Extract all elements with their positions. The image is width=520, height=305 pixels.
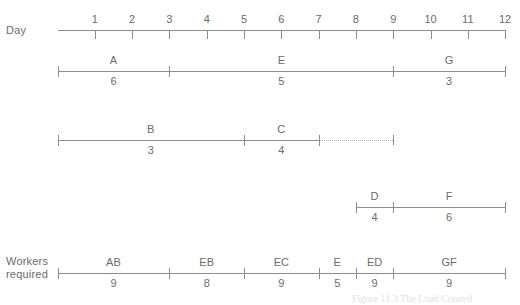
segment-value: 9: [446, 277, 452, 289]
day-axis-tick: [393, 30, 394, 39]
segment-value: 5: [334, 277, 340, 289]
day-axis-tick-label: 3: [166, 13, 172, 25]
row-workers-end-tick: [505, 268, 506, 279]
segment-name: F: [446, 190, 453, 202]
row-df-line: [356, 207, 505, 208]
segment-name: ED: [367, 256, 382, 268]
day-axis-tick: [468, 30, 469, 39]
segment-name: D: [371, 190, 379, 202]
day-axis-tick: [132, 30, 133, 39]
day-axis-tick-label: 12: [499, 13, 511, 25]
day-axis-tick: [207, 30, 208, 39]
segment-value: 5: [278, 75, 284, 87]
row-df-end-tick: [505, 202, 506, 213]
day-axis-tick: [281, 30, 282, 39]
day-axis-tick: [356, 30, 357, 39]
day-axis-tick-label: 1: [92, 13, 98, 25]
row-bc-divider: [244, 135, 245, 146]
segment-name: B: [147, 123, 154, 135]
segment-value: 9: [371, 277, 377, 289]
segment-value: 3: [148, 144, 154, 156]
segment-value: 4: [278, 144, 284, 156]
day-axis-tick-label: 10: [424, 13, 436, 25]
row-aeg-divider: [393, 66, 394, 77]
segment-value: 4: [371, 211, 377, 223]
day-axis-tick: [319, 30, 320, 39]
gantt-chart: Day Workers required 123456789101112A6E5…: [0, 0, 520, 305]
row-bc-float-line: [319, 140, 394, 141]
day-axis-tick: [95, 30, 96, 39]
segment-name: G: [445, 54, 454, 66]
row-aeg-line: [58, 71, 506, 72]
row-workers-start-tick: [58, 268, 59, 279]
day-axis-tick-label: 9: [390, 13, 396, 25]
day-axis-tick-label: 8: [353, 13, 359, 25]
segment-name: C: [277, 123, 285, 135]
segment-value: 8: [204, 277, 210, 289]
segment-value: 9: [278, 277, 284, 289]
segment-value: 9: [110, 277, 116, 289]
segment-value: 6: [446, 211, 452, 223]
segment-name: GF: [442, 256, 457, 268]
row-aeg-divider: [169, 66, 170, 77]
day-axis-label: Day: [6, 24, 26, 37]
row-workers-divider: [356, 268, 357, 279]
row-workers-divider: [169, 268, 170, 279]
segment-name: AB: [106, 256, 121, 268]
figure-caption: Figure 11.3 The Load Created: [352, 293, 472, 304]
day-axis-tick-label: 5: [241, 13, 247, 25]
row-aeg-start-tick: [58, 66, 59, 77]
segment-name: EB: [199, 256, 214, 268]
row-aeg-end-tick: [505, 66, 506, 77]
row-bc-start-tick: [58, 135, 59, 146]
day-axis-tick-label: 4: [204, 13, 210, 25]
row-workers-line: [58, 273, 506, 274]
segment-name: E: [278, 54, 285, 66]
workers-required-label: Workers required: [6, 255, 48, 281]
segment-name: E: [334, 256, 341, 268]
row-bc-line: [58, 140, 319, 141]
day-axis-tick: [431, 30, 432, 39]
segment-name: A: [110, 54, 117, 66]
segment-value: 6: [110, 75, 116, 87]
day-axis-tick: [169, 30, 170, 39]
segment-name: EC: [274, 256, 289, 268]
row-workers-divider: [319, 268, 320, 279]
row-bc-end-tick: [319, 135, 320, 146]
day-axis-tick: [505, 30, 506, 39]
day-axis-tick-label: 11: [462, 13, 473, 25]
day-axis-tick-label: 2: [129, 13, 135, 25]
row-bc-float-end-tick: [393, 135, 394, 145]
day-axis-tick-label: 6: [278, 13, 284, 25]
row-workers-divider: [393, 268, 394, 279]
day-axis-tick: [244, 30, 245, 39]
segment-value: 3: [446, 75, 452, 87]
row-df-start-tick: [356, 202, 357, 213]
row-workers-divider: [244, 268, 245, 279]
row-df-divider: [393, 202, 394, 213]
day-axis-tick-label: 7: [316, 13, 322, 25]
